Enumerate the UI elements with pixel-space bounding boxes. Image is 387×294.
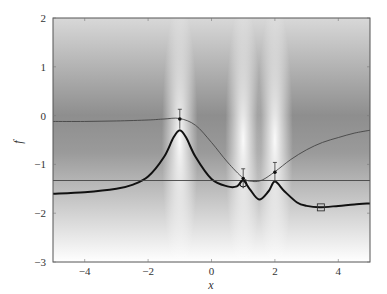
y-tick-label: 2 — [41, 12, 47, 24]
uncertainty-band — [257, 0, 293, 280]
y-tick-label: 1 — [41, 61, 47, 73]
x-tick-label: 0 — [209, 265, 215, 277]
x-tick-label: −4 — [79, 265, 91, 277]
background-density — [53, 18, 370, 262]
y-tick-label: −2 — [34, 207, 46, 219]
chart: −4−2024 −3−2−1012 x f — [0, 0, 387, 294]
observation-point — [273, 170, 277, 174]
x-tick-label: 2 — [272, 265, 278, 277]
y-tick-label: −1 — [34, 158, 46, 170]
uncertainty-band — [225, 0, 261, 280]
uncertainty-band — [162, 0, 198, 280]
y-tick-label: −3 — [34, 256, 46, 268]
x-tick-label: 4 — [336, 265, 342, 277]
x-axis-label: x — [207, 278, 214, 292]
y-axis-label: f — [11, 139, 25, 144]
observation-point — [178, 117, 182, 121]
y-tick-label: 0 — [41, 110, 47, 122]
x-tick-label: −2 — [142, 265, 154, 277]
